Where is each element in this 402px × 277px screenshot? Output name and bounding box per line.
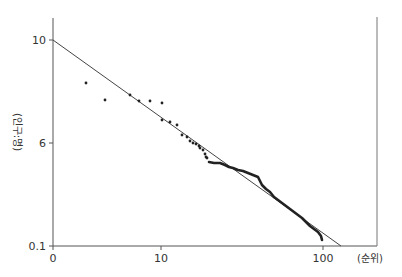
- data-point: [169, 121, 172, 124]
- data-point: [161, 102, 164, 105]
- y-ticks: 10 6 0.1: [29, 34, 54, 253]
- x-tick-label-100: 100: [313, 252, 334, 265]
- y-axis-title: (인구:명): [12, 113, 23, 151]
- dense-data-curve: [209, 162, 322, 240]
- rank-size-chart: 10 6 0.1 0 10 100 (순위) (인구:명): [0, 0, 402, 277]
- data-point: [186, 136, 189, 139]
- data-point: [149, 100, 152, 103]
- x-tick-label-10: 10: [154, 252, 168, 265]
- data-point: [138, 100, 141, 103]
- x-ticks: 0 10 100: [50, 246, 334, 265]
- data-point: [129, 94, 132, 97]
- x-axis-title: (순위): [357, 252, 383, 264]
- data-point: [176, 124, 179, 127]
- data-point: [195, 143, 198, 146]
- y-tick-label-6: 6: [39, 137, 46, 150]
- data-point: [181, 134, 184, 137]
- data-point: [204, 153, 207, 156]
- data-point: [104, 99, 107, 102]
- data-point: [202, 149, 205, 152]
- data-point: [199, 147, 202, 150]
- data-point: [85, 82, 88, 85]
- data-point: [192, 142, 195, 145]
- y-tick-label-0.1: 0.1: [29, 240, 47, 253]
- y-tick-label-10: 10: [32, 34, 46, 47]
- data-point: [161, 119, 164, 122]
- data-point: [189, 140, 192, 143]
- x-tick-label-0: 0: [50, 252, 57, 265]
- data-point: [206, 157, 209, 160]
- scatter-points: [85, 82, 209, 160]
